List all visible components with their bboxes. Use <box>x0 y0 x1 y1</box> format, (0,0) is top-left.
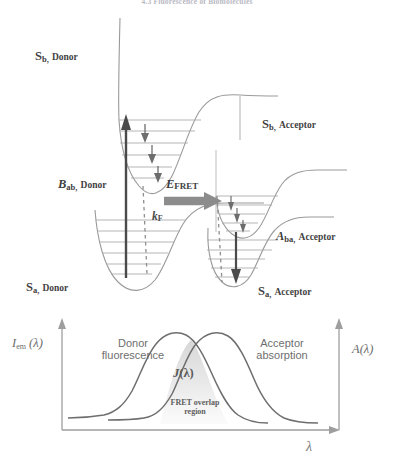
acceptor-excited-vibrational-levels <box>216 196 278 231</box>
efret-transfer-arrow[interactable] <box>164 192 222 210</box>
fret-figure: 4.3 Fluorescence of Biomolecules <box>0 0 394 472</box>
acceptor-absorption-label: Acceptor absorption <box>236 338 328 361</box>
donor-excited-vibrational-levels <box>119 120 201 178</box>
label-acceptor-excited-state: Sb, Acceptor <box>262 118 316 131</box>
label-efret: EFRET <box>166 178 198 191</box>
label-acceptor-ground-state: Sa, Acceptor <box>258 285 311 298</box>
spectral-overlap-plot <box>0 312 394 472</box>
energy-level-diagram <box>0 0 394 318</box>
donor-relaxation-arrows <box>141 124 162 183</box>
plot-x-axis-label: λ <box>306 440 312 455</box>
label-donor-excited-state: Sb, Donor <box>35 50 78 63</box>
acceptor-excited-potential-curve <box>216 170 347 238</box>
donor-kf-dashed-path <box>143 186 147 274</box>
plot-left-axis <box>58 318 66 430</box>
acceptor-ground-potential-curve <box>208 217 334 287</box>
label-kf-rate: kF <box>152 210 163 222</box>
plot-x-axis <box>62 426 340 434</box>
fret-overlap-region-label: FRET overlap region <box>155 398 235 416</box>
plot-left-axis-label: Iem (λ) <box>12 337 43 350</box>
label-donor-absorption-coefficient: Bab, Donor <box>58 178 106 191</box>
plot-right-axis <box>335 318 343 430</box>
donor-ground-vibrational-levels <box>96 220 186 274</box>
label-acceptor-emission-coefficient: Aba, Acceptor <box>276 230 336 243</box>
acceptor-ground-vibrational-levels <box>207 240 278 277</box>
plot-right-axis-label: A(λ) <box>352 343 373 356</box>
overlap-integral-label: J(λ) <box>173 367 194 380</box>
donor-fluorescence-label: Donor fluorescence <box>78 338 188 361</box>
acceptor-relaxation-arrows <box>228 196 246 233</box>
label-donor-ground-state: Sa, Donor <box>26 281 68 294</box>
